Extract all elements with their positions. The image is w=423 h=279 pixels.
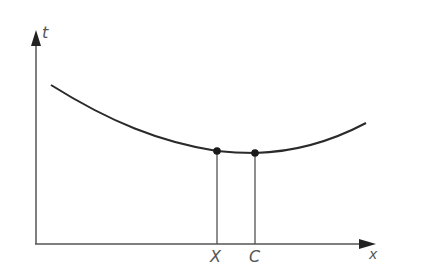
y-axis-arrowhead [31, 30, 41, 46]
graph-diagram: t x X C [0, 0, 423, 279]
c-marker-dot [251, 149, 259, 157]
x-axis-label: x [368, 246, 378, 262]
marker-c-label: C [249, 247, 261, 266]
cost-curve [51, 85, 366, 153]
marker-x-label: X [209, 247, 222, 266]
x-marker-dot [213, 147, 221, 155]
y-axis-label: t [42, 23, 49, 42]
